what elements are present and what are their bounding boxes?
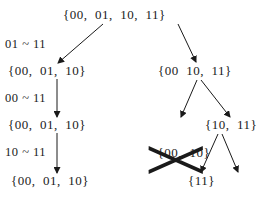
node-right-level3-pruned: {10} [228, 174, 271, 197]
edge-label-10-11: 10 ~ 11 [5, 145, 46, 159]
edge-root-left1 [58, 24, 103, 63]
node-left-level3: {00, 01, 10} [11, 174, 89, 188]
edge-root-right1 [178, 24, 196, 62]
edge-right1-right2b [201, 80, 230, 117]
edge-right2b-right3b [222, 134, 238, 172]
edge-label-00-11: 00 ~ 11 [5, 91, 46, 105]
edge-label-01-11: 01 ~ 11 [5, 37, 46, 51]
node-right-level2: {10, 11} [205, 118, 257, 132]
edge-right1-right2a [181, 80, 197, 117]
node-right-level1: {00 10, 11} [158, 64, 232, 78]
strikethrough-icon [236, 188, 272, 197]
node-left-level2: {00, 01, 10} [8, 118, 86, 132]
node-right-level3: {11} [188, 174, 215, 188]
node-left-level1: {00, 01, 10} [8, 64, 86, 78]
node-root: {00, 01, 10, 11} [63, 8, 166, 22]
pruned-node-10: {10} [236, 188, 272, 197]
